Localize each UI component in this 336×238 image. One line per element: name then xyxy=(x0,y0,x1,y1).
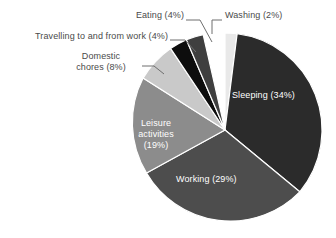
washing-slice-label: Washing (2%) xyxy=(225,10,321,21)
sleeping-slice-label: Sleeping (34%) xyxy=(232,90,316,101)
travelling-slice-label: Travelling to and from work (4%) xyxy=(6,31,168,42)
eating-slice-label: Eating (4%) xyxy=(112,10,184,21)
domestic-chores-slice-label: Domestic chores (8%) xyxy=(63,51,139,73)
working-slice-label: Working (29%) xyxy=(176,174,262,185)
washing-leader-line xyxy=(212,20,222,34)
pie-chart: Eating (4%) Washing (2%) Travelling to a… xyxy=(0,0,336,238)
leisure-activities-slice-label: Leisure activities (19%) xyxy=(122,118,190,151)
